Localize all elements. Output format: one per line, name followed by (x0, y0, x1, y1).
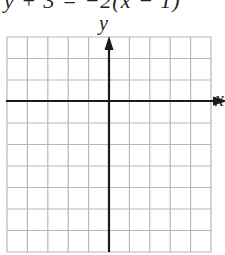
x-axis-arrow-icon (213, 97, 225, 106)
y-axis-arrow-icon (105, 36, 114, 50)
coordinate-grid[interactable] (0, 0, 225, 255)
